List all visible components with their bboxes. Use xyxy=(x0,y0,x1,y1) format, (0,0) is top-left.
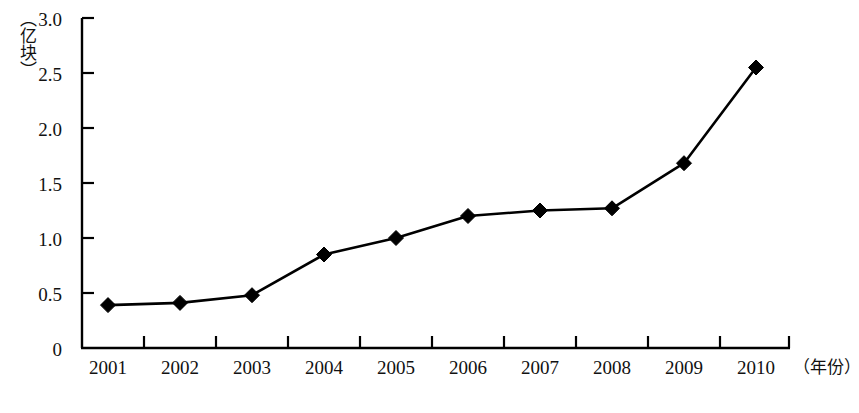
x-tick-label-2010: 2010 xyxy=(720,358,792,377)
y-axis-ticks xyxy=(82,73,94,293)
x-tick-label-2002: 2002 xyxy=(144,358,216,377)
x-tick-label-2008: 2008 xyxy=(576,358,648,377)
data-point-marker xyxy=(605,201,620,216)
x-axis-unit-label: （年份） xyxy=(793,358,859,377)
data-point-marker xyxy=(245,288,260,303)
data-point-marker xyxy=(461,209,476,224)
plot-area xyxy=(0,0,859,413)
line-chart: （亿块） 3.0 2.5 2.0 1.5 1.0 0.5 0 xyxy=(0,0,859,413)
data-point-marker xyxy=(317,247,332,262)
x-tick-label-2006: 2006 xyxy=(432,358,504,377)
x-tick-label-2004: 2004 xyxy=(288,358,360,377)
data-point-marker xyxy=(101,298,116,313)
x-tick-label-2005: 2005 xyxy=(360,358,432,377)
x-tick-label-2001: 2001 xyxy=(72,358,144,377)
data-point-marker xyxy=(173,295,188,310)
series-markers xyxy=(101,60,764,313)
data-point-marker xyxy=(533,203,548,218)
axis-lines xyxy=(81,18,790,348)
series-line xyxy=(108,68,756,306)
x-tick-label-2009: 2009 xyxy=(648,358,720,377)
x-tick-label-2003: 2003 xyxy=(216,358,288,377)
data-point-marker xyxy=(389,231,404,246)
x-axis-ticks xyxy=(144,336,720,348)
x-tick-label-2007: 2007 xyxy=(504,358,576,377)
